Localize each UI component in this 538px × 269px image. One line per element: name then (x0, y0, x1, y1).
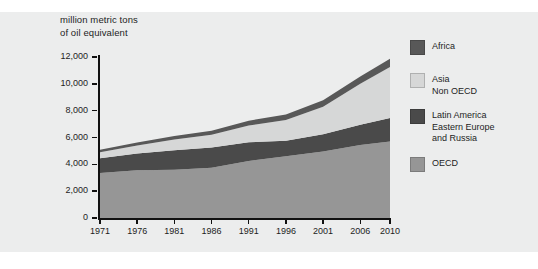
x-tick-label: 1986 (195, 226, 229, 236)
x-tick-label: 1996 (269, 226, 303, 236)
x-tick-mark (389, 220, 390, 224)
stacked-area-svg (100, 57, 390, 218)
x-axis-line (98, 218, 391, 220)
plot-area (100, 57, 390, 218)
x-tick-mark (360, 220, 361, 224)
y-tick-label: 10,000 (44, 78, 88, 88)
y-axis-tick-labels: 02,0004,0006,0008,00010,00012,000 (44, 0, 88, 240)
chart-figure: million metric tons of oil equivalent 02… (0, 0, 538, 269)
x-tick-label: 1991 (232, 226, 266, 236)
legend-label: OECD (432, 157, 458, 170)
legend-swatch-icon (410, 109, 425, 124)
legend-swatch-icon (410, 40, 425, 55)
legend-item[interactable]: Africa (410, 40, 455, 55)
legend-swatch-icon (410, 73, 425, 88)
legend-label: Latin America Eastern Europe and Russia (432, 109, 495, 145)
legend-swatch-icon (410, 157, 425, 172)
y-tick-mark (92, 217, 97, 218)
y-tick-mark (92, 56, 97, 57)
y-tick-mark (92, 137, 97, 138)
y-tick-label: 4,000 (44, 158, 88, 168)
legend-label: Africa (432, 40, 455, 53)
y-tick-mark (92, 110, 97, 111)
legend-item[interactable]: OECD (410, 157, 458, 172)
x-tick-label: 1981 (157, 226, 191, 236)
legend-item[interactable]: Latin America Eastern Europe and Russia (410, 109, 495, 145)
x-tick-mark (174, 220, 175, 224)
x-tick-label: 1971 (83, 226, 117, 236)
legend-item[interactable]: Asia Non OECD (410, 73, 477, 97)
x-tick-mark (322, 220, 323, 224)
x-tick-mark (136, 220, 137, 224)
y-tick-mark (92, 83, 97, 84)
y-tick-mark (92, 164, 97, 165)
x-tick-mark (211, 220, 212, 224)
y-tick-label: 6,000 (44, 132, 88, 142)
y-tick-label: 12,000 (44, 51, 88, 61)
x-tick-label: 1976 (120, 226, 154, 236)
y-tick-mark (92, 190, 97, 191)
y-tick-label: 8,000 (44, 105, 88, 115)
x-tick-mark (285, 220, 286, 224)
y-tick-label: 0 (44, 212, 88, 222)
x-tick-mark (248, 220, 249, 224)
y-tick-label: 2,000 (44, 185, 88, 195)
legend-label: Asia Non OECD (432, 73, 477, 97)
x-tick-label: 2001 (306, 226, 340, 236)
x-tick-mark (99, 220, 100, 224)
x-tick-label: 2010 (373, 226, 407, 236)
